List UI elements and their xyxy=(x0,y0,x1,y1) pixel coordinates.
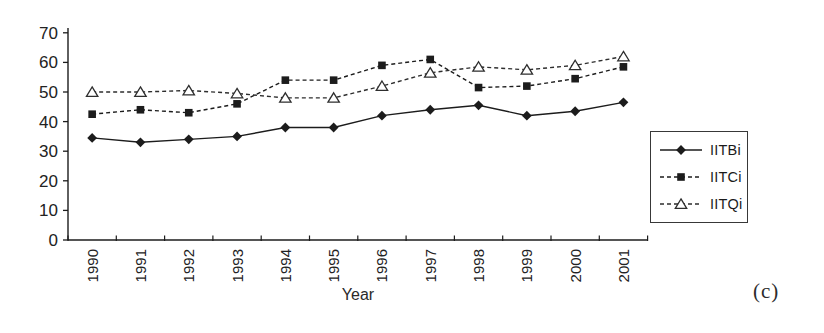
legend-label-iitqi: IITQi xyxy=(710,196,742,212)
y-tick-label: 20 xyxy=(39,172,58,191)
series-IITCi-marker-1998 xyxy=(475,84,483,92)
series-line-IITBi xyxy=(92,102,623,142)
x-tick-label: 1996 xyxy=(373,249,390,282)
series-IITBi-marker-2000 xyxy=(570,106,580,116)
series-IITBi-marker-1996 xyxy=(377,111,387,121)
x-tick-label: 1999 xyxy=(518,249,535,282)
series-IITBi-marker-1998 xyxy=(474,100,484,110)
series-IITCi-marker-1997 xyxy=(426,56,434,64)
series-IITCi-marker-1990 xyxy=(88,110,96,118)
x-tick-label: 2001 xyxy=(615,249,632,282)
x-tick-label: 1998 xyxy=(470,249,487,282)
legend-label-iitbi: IITBi xyxy=(710,142,741,158)
filled-square-dashed-line-icon xyxy=(659,169,703,185)
x-tick-label: 1990 xyxy=(84,249,101,282)
x-tick-label: 1993 xyxy=(229,249,246,282)
y-tick-label: 60 xyxy=(39,53,58,72)
x-tick-label: 1994 xyxy=(277,249,294,282)
y-tick-label: 30 xyxy=(39,142,58,161)
figure-panel: 0102030405060701990199119921993199419951… xyxy=(0,0,824,333)
legend-item-iitqi: IITQi xyxy=(659,196,745,212)
legend-item-iitci: IITCi xyxy=(659,169,745,185)
x-tick-label: 1997 xyxy=(422,249,439,282)
series-IITBi-marker-1997 xyxy=(425,105,435,115)
series-IITBi-marker-1993 xyxy=(232,132,242,142)
legend-label-iitci: IITCi xyxy=(710,169,742,185)
series-IITCi-marker-1993 xyxy=(233,100,241,108)
filled-diamond-line-icon xyxy=(659,142,703,158)
legend: IITBi IITCi IITQi xyxy=(650,131,748,223)
x-axis-title: Year xyxy=(308,286,408,304)
y-tick-label: 70 xyxy=(39,24,58,43)
legend-item-iitbi: IITBi xyxy=(659,142,745,158)
series-IITBi-marker-1992 xyxy=(184,134,194,144)
series-IITBi-marker-1995 xyxy=(329,123,339,133)
x-tick-label: 1991 xyxy=(132,249,149,282)
series-IITBi-marker-1991 xyxy=(136,137,146,147)
series-IITCi-marker-1992 xyxy=(185,109,193,117)
y-tick-label: 50 xyxy=(39,83,58,102)
x-tick-label: 1992 xyxy=(180,249,197,282)
y-tick-label: 40 xyxy=(39,113,58,132)
series-IITBi-marker-2001 xyxy=(619,97,629,107)
series-IITCi-marker-2001 xyxy=(620,63,628,71)
y-tick-label: 10 xyxy=(39,201,58,220)
legend-marker-IITBi xyxy=(676,145,686,155)
series-IITCi-marker-1991 xyxy=(137,106,145,114)
series-IITBi-marker-1990 xyxy=(87,133,97,143)
x-tick-label: 2000 xyxy=(567,249,584,282)
series-IITBi-marker-1994 xyxy=(280,123,290,133)
series-IITCi-marker-1995 xyxy=(330,76,338,84)
open-triangle-dashed-line-icon xyxy=(659,196,703,212)
series-IITCi-marker-1996 xyxy=(378,62,386,70)
series-IITCi-marker-1994 xyxy=(282,76,290,84)
x-tick-label: 1995 xyxy=(325,249,342,282)
series-line-IITQi xyxy=(92,56,623,97)
series-IITQi-marker-2001 xyxy=(618,51,629,60)
legend-marker-IITCi xyxy=(677,173,685,181)
panel-letter-label: (c) xyxy=(753,279,779,304)
y-tick-label: 0 xyxy=(49,231,58,250)
series-IITCi-marker-1999 xyxy=(523,82,531,90)
series-IITCi-marker-2000 xyxy=(571,75,579,83)
series-IITBi-marker-1999 xyxy=(522,111,532,121)
